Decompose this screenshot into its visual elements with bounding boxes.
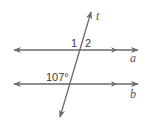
label-given-angle: 107° xyxy=(46,71,69,83)
label-line-a: a xyxy=(130,51,136,65)
label-t: t xyxy=(96,9,100,23)
label-line-b: b xyxy=(130,87,136,101)
line-b xyxy=(14,81,138,87)
label-angle-2: 2 xyxy=(85,37,91,49)
transversal-t xyxy=(60,12,91,117)
label-angle-1: 1 xyxy=(71,37,77,49)
diagram-canvas: t 1 2 a 107° b xyxy=(0,0,147,128)
